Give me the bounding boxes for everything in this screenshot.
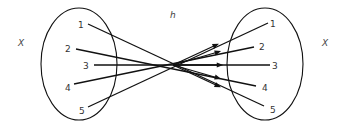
codomain-element-4: 4 <box>262 83 268 93</box>
codomain-element-5: 5 <box>270 105 276 115</box>
domain-element-4: 4 <box>65 83 71 93</box>
arrow-2-to-4 <box>76 49 256 86</box>
domain-set-label: X <box>17 38 25 48</box>
codomain-set-label: X <box>321 38 329 48</box>
domain-element-1: 1 <box>78 20 84 30</box>
function-label: h <box>170 10 176 20</box>
domain-element-3: 3 <box>83 61 89 71</box>
codomain-element-1: 1 <box>270 19 276 29</box>
mapping-diagram: X 1 2 3 4 5 X 1 2 3 4 5 h <box>0 0 344 128</box>
domain-element-5: 5 <box>79 106 85 116</box>
codomain-element-2: 2 <box>259 42 265 52</box>
codomain-element-3: 3 <box>272 61 278 71</box>
domain-element-2: 2 <box>65 44 71 54</box>
